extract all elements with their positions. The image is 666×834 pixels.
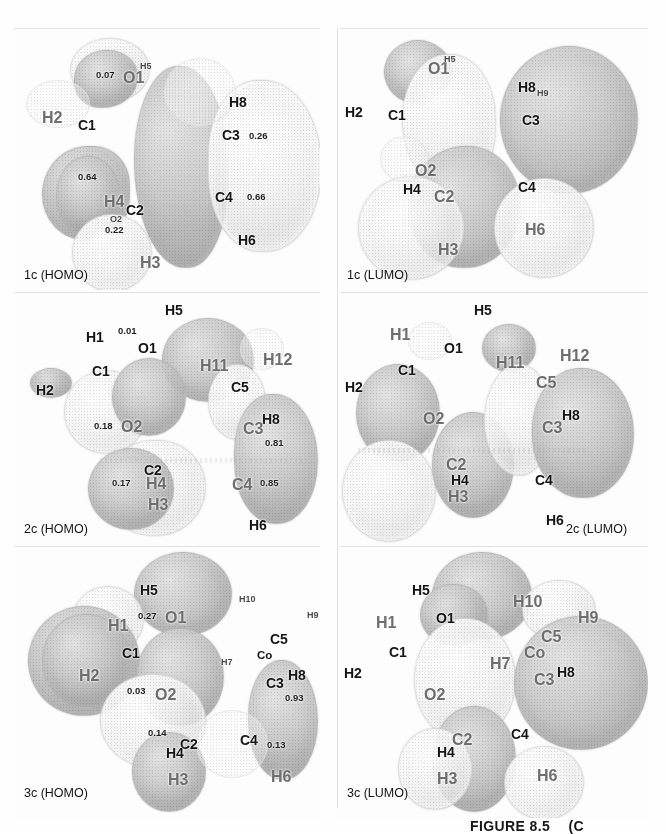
atom-label-h3: H3 xyxy=(438,242,458,258)
panel-divider-vertical-bot xyxy=(337,546,338,808)
orbital-coefficient-value: 0.01 xyxy=(118,326,137,336)
panel-1c-homo xyxy=(12,28,320,290)
atom-label-h11: H11 xyxy=(496,355,524,371)
atom-label-h9: H9 xyxy=(537,89,549,98)
atom-label-h1: H1 xyxy=(390,327,410,343)
atom-label-c3: C3 xyxy=(534,672,554,688)
orbital-lobe xyxy=(64,370,148,454)
atom-label-c2: C2 xyxy=(434,189,454,205)
atom-label-h1: H1 xyxy=(86,330,104,344)
panel-tag-3c-lumo: 3c (LUMO) xyxy=(347,786,408,800)
atom-label-c4: C4 xyxy=(535,473,553,487)
orbital-coefficient-value: 0.03 xyxy=(127,686,146,696)
figure-caption-text: FIGURE 8.5 xyxy=(470,818,550,834)
atom-label-h1: H1 xyxy=(108,618,128,634)
panel-tag-1c-homo: 1c (HOMO) xyxy=(24,268,88,282)
atom-label-c1: C1 xyxy=(388,108,406,122)
atom-label-h8: H8 xyxy=(229,95,247,109)
orbital-coefficient-value: 0.14 xyxy=(148,728,167,738)
atom-label-h1: H1 xyxy=(376,615,396,631)
atom-label-h5: H5 xyxy=(444,55,456,64)
panel-divider-mid-2 xyxy=(14,546,320,547)
atom-label-c4: C4 xyxy=(240,733,258,747)
atom-label-h2: H2 xyxy=(42,110,62,126)
panel-1c-lumo xyxy=(336,28,648,290)
panel-divider-mid-1-right xyxy=(340,292,648,293)
atom-label-c3: C3 xyxy=(522,113,540,127)
panel-divider-mid-2-right xyxy=(340,546,648,547)
orbital-coefficient-value: 0.07 xyxy=(96,70,115,80)
atom-label-h11: H11 xyxy=(200,358,228,374)
atom-label-c4: C4 xyxy=(215,190,233,204)
atom-label-h4: H4 xyxy=(104,194,124,210)
atom-label-c1: C1 xyxy=(122,646,140,660)
atom-label-h3: H3 xyxy=(148,497,168,513)
atom-label-h2: H2 xyxy=(344,666,362,680)
orbital-coefficient-value: 0.64 xyxy=(78,172,97,182)
atom-label-h4: H4 xyxy=(166,746,184,760)
atom-label-o1: O1 xyxy=(436,611,455,625)
atom-label-h7: H7 xyxy=(490,656,510,672)
figure-caption: FIGURE 8.5 (C xyxy=(470,818,584,834)
figure-caption-suffix: (C xyxy=(569,818,585,834)
orbital-coefficient-value: 0.18 xyxy=(94,421,113,431)
atom-label-h9: H9 xyxy=(578,610,598,626)
atom-label-h8: H8 xyxy=(518,80,536,94)
atom-label-c2: C2 xyxy=(446,457,466,473)
atom-label-co: Co xyxy=(257,650,272,662)
atom-label-h9: H9 xyxy=(307,611,319,620)
atom-label-h5: H5 xyxy=(474,303,492,317)
panel-divider-vertical-top xyxy=(337,28,338,292)
orbital-coefficient-value: 0.85 xyxy=(260,478,279,488)
orbital-lobe xyxy=(134,66,228,268)
atom-label-c5: C5 xyxy=(536,375,556,391)
panel-tag-2c-lumo: 2c (LUMO) xyxy=(566,522,627,536)
orbital-lobe xyxy=(208,80,320,252)
atom-label-h10: H10 xyxy=(239,595,256,604)
atom-label-h6: H6 xyxy=(537,768,557,784)
orbital-lobe xyxy=(136,628,224,726)
orbital-coefficient-value: 0.26 xyxy=(249,131,268,141)
atom-label-c1: C1 xyxy=(389,645,407,659)
atom-label-co: Co xyxy=(524,645,545,661)
orbital-lobe xyxy=(414,618,516,742)
atom-label-c5: C5 xyxy=(231,380,249,394)
atom-label-c3: C3 xyxy=(222,128,240,142)
atom-label-h2: H2 xyxy=(36,383,54,397)
atom-label-h6: H6 xyxy=(525,222,545,238)
atom-label-o2: O2 xyxy=(155,687,176,703)
atom-label-h5: H5 xyxy=(140,62,152,71)
atom-label-c3: C3 xyxy=(266,676,284,690)
atom-label-h8: H8 xyxy=(262,412,280,426)
atom-label-c3: C3 xyxy=(542,420,562,436)
atom-label-o2: O2 xyxy=(121,419,142,435)
orbital-coefficient-value: 0.81 xyxy=(265,438,284,448)
atom-label-c1: C1 xyxy=(78,118,96,132)
orbital-coefficient-value: 0.66 xyxy=(247,192,266,202)
atom-label-h4: H4 xyxy=(146,476,166,492)
atom-label-o2: O2 xyxy=(110,215,122,224)
orbital-lobe xyxy=(164,58,236,126)
atom-label-c1: C1 xyxy=(92,364,110,378)
panel-divider-top xyxy=(14,28,320,29)
atom-label-h4: H4 xyxy=(437,745,455,759)
orbital-coefficient-value: 0.22 xyxy=(105,225,124,235)
panel-divider-vertical-mid xyxy=(337,292,338,546)
atom-label-h3: H3 xyxy=(140,255,160,271)
atom-label-c5: C5 xyxy=(541,629,561,645)
panel-tag-1c-lumo: 1c (LUMO) xyxy=(347,268,408,282)
orbital-coefficient-value: 0.13 xyxy=(267,740,286,750)
atom-label-h4: H4 xyxy=(451,473,469,487)
panel-divider-mid-1 xyxy=(14,292,320,293)
atom-label-h4: H4 xyxy=(403,182,421,196)
atom-label-h5: H5 xyxy=(412,583,430,597)
atom-label-o1: O1 xyxy=(123,70,144,86)
scan-artifact xyxy=(100,458,308,463)
atom-label-c2: C2 xyxy=(452,732,472,748)
orbital-coefficient-value: 0.17 xyxy=(112,478,131,488)
atom-label-h8: H8 xyxy=(562,408,580,422)
panel-2c-lumo xyxy=(336,296,648,544)
atom-label-c1: C1 xyxy=(398,363,416,377)
orbital-lobe xyxy=(100,674,206,768)
